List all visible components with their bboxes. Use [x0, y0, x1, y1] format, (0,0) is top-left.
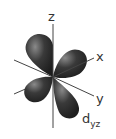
orbital-lobe-lower-left	[24, 77, 53, 103]
y-axis-label: y	[96, 92, 104, 105]
x-axis-label: x	[96, 50, 104, 63]
orbital-subscript: yz	[90, 119, 100, 129]
z-axis-label: z	[48, 10, 55, 23]
orbital-label: dyz	[82, 112, 100, 125]
